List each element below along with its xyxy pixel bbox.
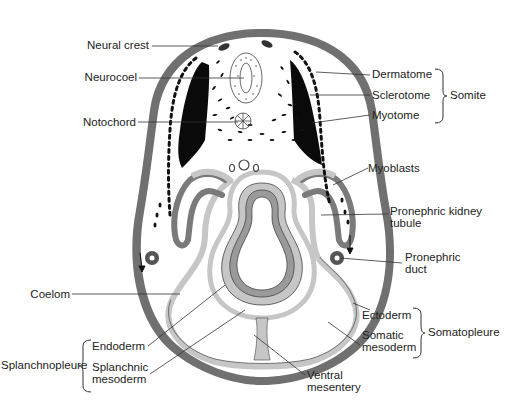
- label-endoderm: Endoderm: [92, 340, 145, 353]
- label-ventral-mesentery-line2: mesentery: [307, 381, 361, 394]
- label-somatopleure: Somatopleure: [428, 326, 500, 339]
- label-dermatome: Dermatome: [372, 68, 432, 81]
- label-splanchnopleure: Splanchnopleure: [1, 359, 87, 372]
- label-sclerotome: Sclerotome: [372, 89, 430, 102]
- label-somatic-mesoderm-line2: mesoderm: [362, 341, 416, 354]
- label-coelom: Coelom: [20, 288, 70, 301]
- label-ectoderm: Ectoderm: [362, 309, 411, 322]
- label-pronephric-kidney-tubule-line2: tubule: [390, 217, 421, 230]
- label-pronephric-duct-line2: duct: [405, 263, 427, 276]
- label-splanchnic-mesoderm-line2: mesoderm: [92, 373, 146, 386]
- notochord-shape: [235, 113, 251, 129]
- label-myotome: Myotome: [372, 109, 419, 122]
- label-somite: Somite: [450, 89, 486, 102]
- somite-bracket: [435, 69, 447, 123]
- label-myoblasts: Myoblasts: [368, 162, 420, 175]
- label-neural-crest: Neural crest: [60, 39, 149, 52]
- label-notochord: Notochord: [60, 116, 136, 129]
- label-neurocoel: Neurocoel: [60, 71, 137, 84]
